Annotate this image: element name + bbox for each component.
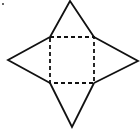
triangle-face-left bbox=[8, 37, 50, 83]
triangle-face-top bbox=[50, 1, 94, 37]
marker-dot bbox=[2, 3, 4, 5]
triangle-faces bbox=[8, 1, 138, 127]
triangle-face-bottom bbox=[50, 83, 94, 127]
base-square-dashed bbox=[50, 37, 94, 83]
pyramid-net-diagram bbox=[0, 0, 140, 130]
triangle-face-right bbox=[94, 37, 138, 83]
